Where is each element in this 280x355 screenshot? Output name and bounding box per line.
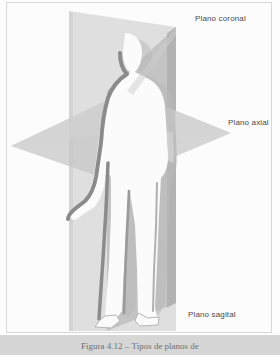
body-right-arm-hint [167, 131, 174, 163]
label-plano-axial: Plano axial [228, 119, 269, 127]
figure-caption: Figura 4.12 – Tipos de planos de [0, 341, 280, 351]
anatomical-planes-figure: Plano coronal Plano axial Plano sagital … [0, 0, 280, 355]
caption-band: Figura 4.12 – Tipos de planos de [0, 335, 280, 355]
label-plano-sagital: Plano sagital [188, 311, 236, 319]
label-plano-coronal: Plano coronal [195, 15, 246, 23]
planes-illustration [7, 3, 272, 333]
coronal-plane-edge [69, 11, 73, 331]
figure-frame: Plano coronal Plano axial Plano sagital [6, 2, 272, 333]
